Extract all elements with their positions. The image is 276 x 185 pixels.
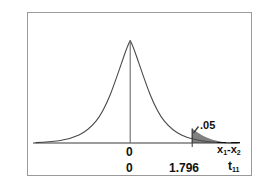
tail-area-label: .05 [200, 120, 215, 131]
mean-label-secondary-axis: 0 [126, 162, 133, 174]
critical-value-label: 1.796 [169, 162, 199, 174]
overbar-icon [217, 142, 226, 143]
mean-label-primary-axis: 0 [126, 146, 133, 158]
t-statistic-subscript: 11 [232, 166, 239, 173]
x-bar-2-subscript: 2 [237, 149, 241, 156]
x-bar-1: x1 [217, 144, 227, 155]
x-bar-2-symbol: x [231, 143, 237, 155]
x-bar-2: x2 [231, 144, 241, 155]
overbar-icon [231, 142, 240, 143]
t-distribution-figure: .05 0 0 1.796 x1-x2 t11 [0, 0, 276, 185]
secondary-axis-label: t11 [228, 160, 239, 172]
x-bar-1-subscript: 1 [223, 149, 227, 156]
primary-axis-label: x1-x2 [217, 144, 241, 155]
